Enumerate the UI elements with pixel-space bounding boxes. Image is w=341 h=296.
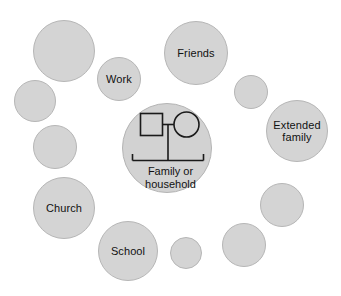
node-bottom-right: [222, 223, 266, 267]
ecomap-node-label: Extended family: [273, 119, 320, 143]
node-left-mid: [33, 125, 77, 169]
ecomap-node-extended-family: Extended family: [266, 100, 328, 162]
node-bottom-small: [170, 237, 202, 269]
ecomap-node-label: Friends: [177, 47, 214, 59]
ecomap-node-label: School: [111, 245, 145, 257]
node-left-upper: [14, 80, 56, 122]
ecomap-node-friends: Friends: [164, 21, 228, 85]
ecomap-node-label: Church: [46, 202, 82, 214]
node-top-left: [33, 20, 95, 82]
ecomap-diagram: WorkFriendsExtended familyChurchSchoolFa…: [0, 0, 341, 296]
ecomap-node-work: Work: [97, 57, 141, 101]
node-upper-right: [234, 75, 268, 109]
central-family-label: Family or household: [0, 165, 341, 190]
ecomap-node-school: School: [98, 221, 158, 281]
ecomap-node-label: Work: [106, 73, 132, 85]
